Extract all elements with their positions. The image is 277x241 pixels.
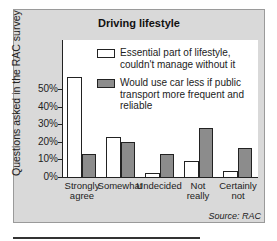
x-axis: [62, 177, 258, 178]
legend-swatch-transport: [97, 79, 115, 88]
legend-label-transport: Would use car less if public transport m…: [120, 77, 260, 112]
bar-transport-not-really: [199, 128, 213, 178]
x-label-certainly-not: Certainlynot: [214, 181, 262, 201]
y-tick-label: 20%: [30, 136, 58, 147]
bar-essential-strongly-agree: [67, 77, 82, 178]
legend-swatch-essential: [97, 49, 115, 58]
bar-transport-undecided: [160, 154, 174, 178]
y-axis-label: Questions asked in the RAC survey: [10, 56, 22, 176]
source-note: Source: RAC: [208, 211, 261, 221]
y-tick-label: 10%: [30, 153, 58, 164]
y-tick-label: 30%: [30, 118, 58, 129]
chart-title: Driving lifestyle: [13, 17, 265, 29]
bar-transport-somewhat: [121, 142, 135, 178]
y-tick-label: 0%: [30, 171, 58, 182]
y-tick-label: 40%: [30, 101, 58, 112]
bar-essential-not-really: [184, 161, 199, 178]
y-tick-label: 50%: [30, 83, 58, 94]
bar-transport-certainly-not: [238, 148, 252, 178]
legend-label-essential: Essential part of lifestyle, couldn't ma…: [120, 47, 260, 70]
bar-transport-strongly-agree: [82, 154, 96, 178]
divider-rule: [13, 237, 200, 239]
bar-essential-somewhat: [106, 137, 121, 178]
y-axis: [62, 40, 63, 178]
